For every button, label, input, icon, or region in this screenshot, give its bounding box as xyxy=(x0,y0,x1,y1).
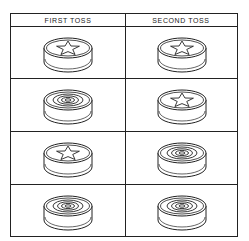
checker-first-toss-row-3-star xyxy=(38,137,98,181)
row-divider-2 xyxy=(11,131,237,132)
checker-second-toss-row-4-rings xyxy=(152,190,212,234)
star-checker-icon xyxy=(152,32,212,76)
star-checker-icon xyxy=(38,137,98,181)
rings-checker-icon xyxy=(152,190,212,234)
checker-second-toss-row-2-star xyxy=(152,84,212,128)
checker-first-toss-row-2-rings xyxy=(38,84,98,128)
row-divider-3 xyxy=(11,184,237,185)
header-divider xyxy=(11,26,237,27)
rings-checker-icon xyxy=(38,190,98,234)
checker-second-toss-row-1-star xyxy=(152,32,212,76)
toss-outcome-table: FIRST TOSS SECOND TOSS xyxy=(10,13,238,237)
star-checker-icon xyxy=(152,84,212,128)
rings-checker-icon xyxy=(38,84,98,128)
row-divider-1 xyxy=(11,78,237,79)
checker-first-toss-row-1-star xyxy=(38,32,98,76)
rings-checker-icon xyxy=(152,137,212,181)
checker-second-toss-row-3-rings xyxy=(152,137,212,181)
column-divider xyxy=(125,14,126,236)
star-checker-icon xyxy=(38,32,98,76)
checker-first-toss-row-4-rings xyxy=(38,190,98,234)
